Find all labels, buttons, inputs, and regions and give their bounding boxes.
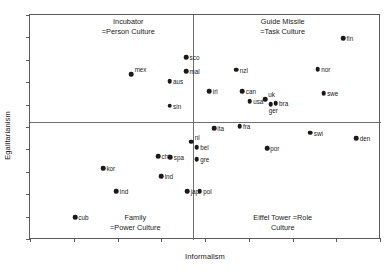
data-point-kor [101, 166, 106, 171]
data-point-nl [189, 140, 194, 145]
data-point-sin [167, 104, 172, 109]
data-point-cub [73, 215, 78, 220]
data-point-label-sin: sin [173, 103, 181, 109]
data-point-label-usa: usa [253, 98, 263, 104]
data-point-label-pol: pol [203, 188, 211, 194]
data-point-nor [316, 67, 321, 72]
y-tick [26, 37, 30, 38]
y-tick [26, 217, 30, 218]
data-point-mex [129, 72, 134, 77]
data-point-label-bra: bra [279, 100, 288, 106]
y-tick [26, 149, 30, 150]
data-point-bra [273, 101, 278, 106]
data-point-label-ger: ger [269, 108, 278, 114]
data-point-label-nl: nl [195, 135, 200, 141]
data-point-bel [194, 145, 199, 150]
data-point-uk [263, 97, 268, 102]
data-point-den [354, 136, 359, 141]
x-tick [293, 238, 294, 242]
y-tick [26, 60, 30, 61]
x-tick [118, 238, 119, 242]
data-point-spa [168, 155, 173, 160]
x-tick [336, 238, 337, 242]
y-tick [26, 82, 30, 83]
data-point-irl [207, 89, 212, 94]
plot-area: Incubator =Person CultureGuide Missile =… [29, 14, 380, 239]
quadrant-label-incubator: Incubator =Person Culture [73, 17, 183, 36]
data-point-por [265, 146, 270, 151]
data-point-label-swi: swi [314, 130, 323, 136]
data-point-label-can: can [246, 88, 256, 94]
data-point-label-mal: mal [190, 68, 200, 74]
y-tick [26, 15, 30, 16]
y-tick [26, 127, 30, 128]
data-point-ind [159, 174, 164, 179]
data-point-ger [268, 102, 273, 107]
data-point-label-ind: ind [120, 188, 128, 194]
data-point-chi [156, 154, 161, 159]
data-point-label-por: por [270, 145, 279, 151]
vertical-divider [193, 15, 194, 240]
data-point-label-aus: aus [173, 78, 183, 84]
data-point-label-fra: fra [243, 123, 250, 129]
x-tick [249, 238, 250, 242]
data-point-label-den: den [360, 136, 371, 142]
x-tick [30, 238, 31, 242]
x-tick [161, 238, 162, 242]
data-point-fra [237, 124, 242, 129]
quadrant-label-guide-missile: Guide Missile =Task Culture [228, 17, 338, 36]
x-axis-label: Informalism [30, 252, 380, 261]
data-point-label-cub: cub [78, 214, 88, 220]
data-point-label-ind: ind [165, 174, 173, 180]
scatter-plot-figure: Egalitarianism Informalism Incubator =Pe… [0, 0, 390, 271]
data-point-label-swe: swe [327, 91, 338, 97]
y-axis-label: Egalitarianism [0, 0, 14, 271]
data-point-ita [212, 126, 217, 131]
y-tick [26, 172, 30, 173]
quadrant-label-family: Family =Power Culture [80, 213, 190, 232]
data-point-label-nor: nor [321, 66, 330, 72]
data-point-label-fin: fin [346, 35, 353, 41]
x-tick [74, 238, 75, 242]
data-point-label-irl: irl [213, 88, 218, 94]
data-point-can [240, 89, 245, 94]
data-point-nzl [234, 68, 239, 73]
data-point-swe [321, 91, 326, 96]
x-tick [205, 238, 206, 242]
horizontal-divider [30, 122, 381, 123]
data-point-label-bel: bel [200, 145, 208, 151]
data-point-label-sco: sco [190, 55, 200, 61]
x-tick [380, 238, 381, 242]
data-point-sco [184, 55, 189, 60]
data-point-aus [167, 79, 172, 84]
data-point-label-kor: kor [106, 165, 115, 171]
data-point-label-gre: gre [200, 156, 209, 162]
data-point-gre [194, 157, 199, 162]
data-point-usa [247, 99, 252, 104]
data-point-label-uk: uk [268, 92, 275, 98]
data-point-ind [114, 189, 119, 194]
y-tick [26, 105, 30, 106]
data-point-label-nzl: nzl [240, 67, 248, 73]
data-point-label-mex: mex [135, 67, 147, 73]
data-point-label-spa: spa [174, 154, 184, 160]
y-tick [26, 239, 30, 240]
data-point-fin [341, 36, 346, 41]
data-point-jap [185, 189, 190, 194]
data-point-pol [198, 189, 203, 194]
data-point-label-ita: ita [217, 125, 224, 131]
quadrant-label-eiffel-tower: Eiffel Tower =Role Culture [228, 213, 338, 232]
data-point-mal [184, 69, 189, 74]
data-point-swi [308, 131, 313, 136]
y-tick [26, 194, 30, 195]
